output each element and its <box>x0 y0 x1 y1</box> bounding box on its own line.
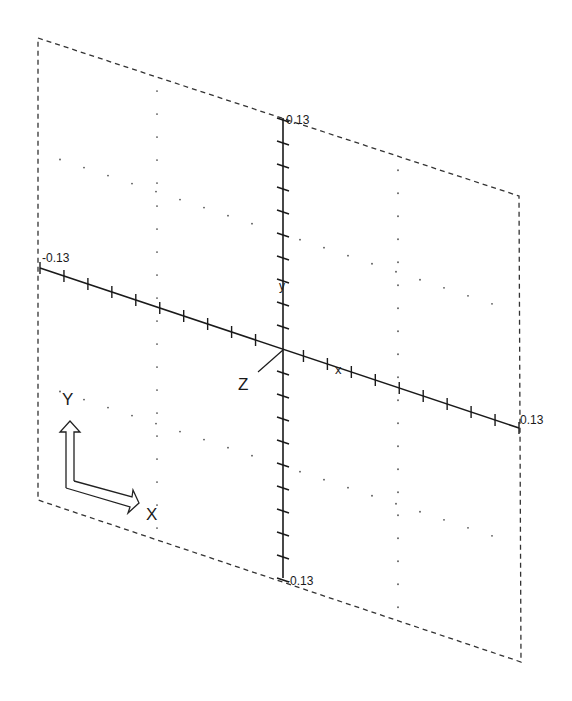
axis-ticks <box>40 118 519 582</box>
triad-x-arrow-icon <box>66 481 139 513</box>
triad-y-arrow-icon <box>60 421 80 488</box>
isometric-viewport[interactable]: 0.13 -0.13 -0.13 0.13 Z x y Y X <box>0 0 572 701</box>
triad-y-label: Y <box>62 390 73 409</box>
horizontal-axis-max-label: 0.13 <box>520 413 544 427</box>
triad-x-label: X <box>146 505 157 524</box>
z-axis-line <box>258 350 283 372</box>
y-marker: y <box>279 279 285 293</box>
x-marker: x <box>335 362 342 377</box>
coordinate-axes <box>40 118 519 582</box>
horizontal-axis-min-label: -0.13 <box>42 251 70 265</box>
z-axis-label: Z <box>238 375 248 394</box>
grid-dots <box>59 90 493 608</box>
workplane-frame <box>38 38 521 662</box>
vertical-axis-min-label: -0.13 <box>286 574 314 588</box>
axis-triad-icon: Y X <box>60 390 157 524</box>
vertical-axis-max-label: 0.13 <box>286 113 310 127</box>
